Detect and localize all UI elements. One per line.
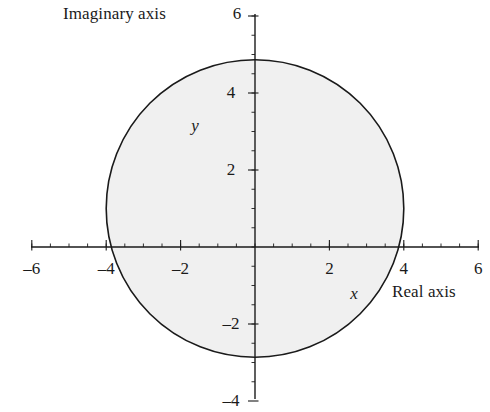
x-tick-label: –6 — [23, 259, 40, 279]
x-tick-label: –4 — [98, 259, 115, 279]
y-tick-label: 6 — [233, 4, 242, 24]
y-tick-label: –4 — [223, 391, 240, 411]
x-tick-label: –2 — [172, 259, 189, 279]
x-variable-label: x — [350, 284, 358, 304]
x-tick-label: 6 — [474, 259, 483, 279]
real-axis-title: Real axis — [392, 282, 456, 302]
y-tick-label: 4 — [227, 83, 236, 103]
x-tick-label: 2 — [325, 259, 334, 279]
imaginary-axis-title: Imaginary axis — [63, 4, 166, 24]
x-tick-label: 4 — [400, 259, 409, 279]
plot-canvas — [0, 0, 490, 412]
y-tick-label: –2 — [223, 314, 240, 334]
y-tick-label: 2 — [227, 160, 236, 180]
y-variable-label: y — [191, 116, 199, 136]
complex-plane-plot: Imaginary axis Real axis y x –6–4–2246–4… — [0, 0, 490, 412]
axis-lines — [31, 14, 479, 399]
